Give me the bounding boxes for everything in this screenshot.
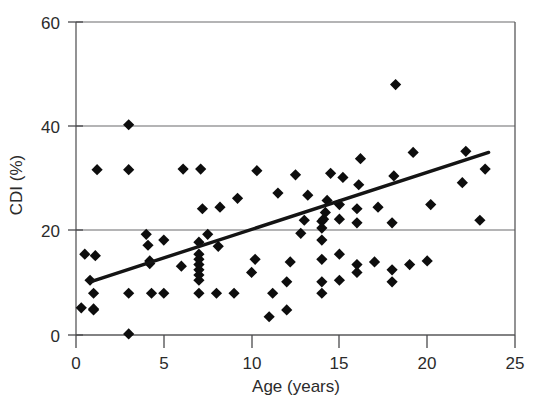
- x-tick-label-5: 5: [159, 354, 168, 373]
- x-tick-label-20: 20: [418, 354, 437, 373]
- x-tick-label-10: 10: [243, 354, 262, 373]
- x-tick-label-15: 15: [330, 354, 349, 373]
- chart-canvas: 60 40 20 0 0 5 10 15 20 25 Age (years) C…: [0, 0, 536, 397]
- y-tick-label-60: 60: [41, 14, 60, 33]
- scatter-plot-figure: 60 40 20 0 0 5 10 15 20 25 Age (years) C…: [0, 0, 536, 397]
- y-tick-label-0: 0: [51, 327, 60, 346]
- y-axis-title: CDI (%): [7, 155, 26, 215]
- y-tick-label-20: 20: [41, 222, 60, 241]
- x-tick-label-25: 25: [506, 354, 525, 373]
- y-tick-label-40: 40: [41, 118, 60, 137]
- chart-background: [0, 0, 536, 397]
- x-axis-title: Age (years): [252, 377, 340, 396]
- x-tick-label-0: 0: [71, 354, 80, 373]
